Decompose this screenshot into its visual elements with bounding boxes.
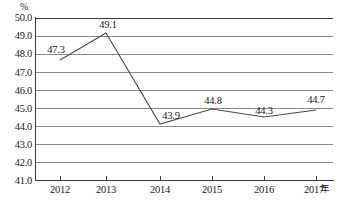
x-tick-mark [60, 176, 61, 181]
x-tick-label-2015: 2015 [202, 184, 222, 195]
x-tick-mark [106, 176, 107, 181]
y-tick-label: 48.0 [15, 49, 32, 59]
gridline [35, 36, 333, 37]
y-tick-label: 45.0 [15, 104, 32, 114]
data-label-2013: 49.1 [99, 20, 117, 30]
y-tick-label: 50.0 [15, 13, 32, 23]
x-axis-line [35, 180, 334, 181]
x-tick-mark [264, 176, 265, 181]
gridline [35, 144, 333, 145]
x-tick-mark [212, 176, 213, 181]
gridline [35, 126, 333, 127]
y-tick-label: 41.0 [15, 176, 32, 186]
x-tick-mark [160, 176, 161, 181]
plot-area [35, 18, 333, 180]
gridline [35, 54, 333, 55]
y-tick-label: 47.0 [15, 68, 32, 78]
x-tick-mark [316, 176, 317, 181]
x-tick-label-2016: 2016 [254, 184, 274, 195]
y-axis-line [35, 17, 36, 181]
gridline [35, 162, 333, 163]
data-label-2015: 44.8 [204, 96, 222, 106]
data-label-2012: 47.3 [47, 45, 65, 55]
x-tick-label-2012: 2012 [50, 184, 70, 195]
y-tick-label: 46.0 [15, 86, 32, 96]
gridline [35, 90, 333, 91]
y-tick-label: 43.0 [15, 140, 32, 150]
data-label-2017: 44.7 [307, 95, 325, 105]
line-chart: % 50.0 49.0 48.0 47.0 46.0 45.0 44.0 43.… [0, 0, 341, 208]
x-tick-label-2013: 2013 [96, 184, 116, 195]
data-label-2014: 43.9 [162, 111, 180, 121]
data-label-2016: 44.3 [255, 106, 273, 116]
gridline [35, 72, 333, 73]
x-tick-label-2014: 2014 [150, 184, 170, 195]
x-axis-unit-label: 年 [320, 184, 330, 195]
gridline [35, 108, 333, 109]
y-axis-labels: 50.0 49.0 48.0 47.0 46.0 45.0 44.0 43.0 … [0, 0, 34, 208]
gridline [35, 18, 333, 19]
y-tick-label: 49.0 [15, 31, 32, 41]
y-tick-label: 44.0 [15, 122, 32, 132]
y-tick-label: 42.0 [15, 158, 32, 168]
